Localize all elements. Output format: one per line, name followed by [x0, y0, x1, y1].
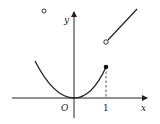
x-axis-label: x	[141, 103, 146, 113]
function-graph: y x O 1	[0, 0, 160, 124]
isolated-open-circle	[42, 9, 46, 13]
parabola-curve	[35, 61, 106, 98]
x-tick-label-1: 1	[103, 103, 109, 113]
filled-endpoint-dot	[104, 65, 109, 70]
origin-label: O	[61, 103, 69, 113]
ray-line	[108, 9, 137, 40]
y-axis-label: y	[63, 15, 70, 25]
open-endpoint-circle	[104, 40, 108, 44]
